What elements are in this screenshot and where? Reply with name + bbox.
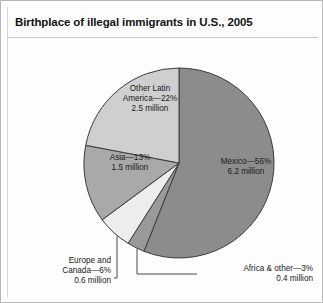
pie-label-line: 6.2 million <box>205 167 287 177</box>
pie-label-line: 0.4 million <box>197 274 313 284</box>
pie-label-line: Other Latin <box>96 84 204 94</box>
pie-label-other-latin-america: Other Latin America—22% 2.5 million <box>96 84 204 115</box>
pie-label-europe-canada: Europe and Canada—6% 0.6 million <box>19 256 111 287</box>
pie-label-line: Europe and <box>19 256 111 266</box>
pie-label-line: 0.6 million <box>19 276 111 286</box>
pie-label-mexico: Mexico—56% 6.2 million <box>205 157 287 177</box>
pie-label-line: Asia—13% <box>94 153 166 163</box>
pie-label-africa-other: Africa & other—3% 0.4 million <box>197 264 313 284</box>
pie-label-line: America—22% <box>96 94 204 104</box>
leader-line-europe-canada <box>114 236 117 278</box>
pie-label-asia: Asia—13% 1.5 million <box>94 153 166 173</box>
pie-label-line: 1.5 million <box>94 163 166 173</box>
pie-label-line: 2.5 million <box>96 104 204 114</box>
chart-frame: Birthplace of illegal immigrants in U.S.… <box>0 0 323 303</box>
pie-label-line: Canada—6% <box>19 266 111 276</box>
pie-label-line: Africa & other—3% <box>197 264 313 274</box>
pie-label-line: Mexico—56% <box>205 157 287 167</box>
